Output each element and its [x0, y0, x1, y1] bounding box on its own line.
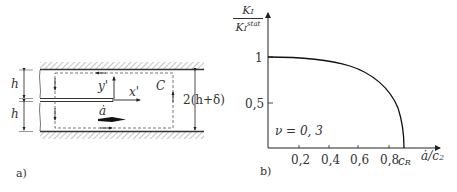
xtick-cr: cR — [398, 155, 411, 167]
left-cut-edge — [40, 70, 41, 98]
label-h-top: h — [11, 78, 19, 90]
xtick-0-6: 0,6 — [350, 154, 369, 166]
panel-b-label: b) — [260, 166, 271, 177]
xtick-0-8: 0,8 — [380, 154, 399, 166]
top-wall-hatch — [40, 62, 204, 69]
label-contour-c: C — [156, 80, 165, 92]
label-velocity: ȧ — [99, 105, 106, 117]
label-channel-height: 2(h+δ) — [183, 94, 225, 106]
label-y-prime: y' — [98, 80, 108, 92]
y-axis-label: KI KIstat — [233, 5, 263, 33]
label-h-bottom: h — [11, 108, 19, 120]
x-axis-label: ȧ/c2 — [421, 150, 444, 162]
xtick-0-4: 0,4 — [321, 154, 340, 166]
panel-a-diagram — [19, 62, 204, 139]
ytick-1: 1 — [255, 52, 263, 64]
poisson-ratio-annotation: ν = 0, 3 — [275, 125, 323, 137]
ytick-0-5: 0,5 — [245, 98, 264, 110]
bottom-wall-hatch — [40, 132, 204, 139]
xtick-0-2: 0,2 — [291, 154, 310, 166]
panel-a-label: a) — [16, 168, 27, 179]
label-x-prime: x' — [129, 86, 139, 98]
